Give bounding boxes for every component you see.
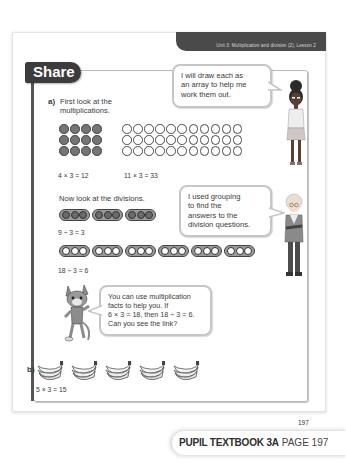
counter-dot: [79, 211, 87, 219]
page-label: PAGE 197: [282, 437, 329, 448]
banana-bunch-icon: [138, 358, 166, 382]
counter-dot: [211, 247, 219, 255]
part-a-intro-line2: multiplications.: [60, 106, 110, 115]
bubble-tail-girl: [268, 78, 282, 94]
counter-group: [191, 245, 222, 257]
section-title-share: Share: [25, 62, 81, 83]
counter-group: [92, 245, 123, 257]
counter-dot: [133, 135, 143, 145]
counter-dot: [145, 247, 153, 255]
banana-bunch-icon: [70, 358, 98, 382]
counter-group: [125, 245, 156, 257]
counter-dot: [211, 146, 221, 156]
counter-dot: [222, 135, 232, 145]
counter-dot: [166, 124, 176, 134]
counter-dot: [227, 247, 235, 255]
counter-dot: [70, 146, 80, 156]
banana-bunch-icon: [36, 358, 64, 382]
boy-line2: to find the: [188, 201, 263, 210]
boy-line4: division questions.: [188, 220, 263, 229]
equation-4x3: 4 × 3 = 12: [58, 171, 89, 180]
speech-bubble-boy: I used grouping to find the answers to t…: [179, 185, 272, 237]
girl-line2: an array to help me: [181, 80, 263, 89]
counter-dot: [112, 247, 120, 255]
counter-dot: [122, 135, 132, 145]
counter-dot: [144, 146, 154, 156]
counter-dot: [177, 146, 187, 156]
cat-line3: 6 × 3 = 18, then 18 ÷ 3 = 6.: [108, 310, 203, 319]
part-b-label: b): [27, 365, 35, 374]
counter-dot: [233, 135, 243, 145]
part-a-intro-line1: First look at the: [60, 97, 112, 106]
counter-dot: [59, 146, 69, 156]
counter-dot: [200, 146, 210, 156]
counter-dot: [122, 124, 132, 134]
counter-dot: [95, 247, 103, 255]
cat-character-icon: [62, 284, 92, 344]
counter-dot: [144, 124, 154, 134]
counter-dot: [155, 146, 165, 156]
counter-dot: [177, 135, 187, 145]
array-4x3: [59, 124, 102, 156]
banana-bunches: [36, 358, 200, 382]
counter-dot: [81, 146, 91, 156]
counter-dot: [244, 247, 252, 255]
speech-bubble-cat: You can use multiplication facts to help…: [99, 285, 212, 336]
cat-line4: Can you see the link?: [108, 319, 203, 328]
counter-dot: [194, 247, 202, 255]
counter-dot: [137, 211, 145, 219]
counter-dot: [200, 135, 210, 145]
counter-group: [158, 245, 189, 257]
counter-group: [92, 209, 123, 221]
counter-dot: [128, 211, 136, 219]
counter-dot: [92, 135, 102, 145]
counter-dot: [104, 247, 112, 255]
counter-dot: [166, 146, 176, 156]
division-groups-18: [59, 245, 255, 257]
counter-dot: [161, 247, 169, 255]
counter-dot: [189, 146, 199, 156]
divisions-intro: Now look at the divisions.: [59, 194, 145, 203]
counter-dot: [145, 211, 153, 219]
counter-dot: [70, 124, 80, 134]
counter-dot: [81, 124, 91, 134]
counter-dot: [222, 124, 232, 134]
counter-dot: [71, 211, 79, 219]
counter-dot: [128, 247, 136, 255]
counter-dot: [166, 135, 176, 145]
speech-bubble-girl: I will draw each as an array to help me …: [172, 64, 272, 108]
counter-dot: [189, 135, 199, 145]
cat-line2: facts to help you. If: [108, 301, 203, 310]
boy-line1: I used grouping: [188, 192, 263, 201]
division-groups-9: [59, 209, 156, 221]
banana-bunch-icon: [104, 358, 132, 382]
counter-dot: [79, 247, 87, 255]
girl-character-icon: [283, 78, 309, 168]
counter-dot: [170, 247, 178, 255]
counter-group: [59, 209, 90, 221]
counter-dot: [189, 124, 199, 134]
counter-dot: [133, 124, 143, 134]
counter-dot: [137, 247, 145, 255]
boy-line3: answers to the: [188, 211, 263, 220]
counter-dot: [155, 124, 165, 134]
counter-group: [125, 209, 156, 221]
counter-dot: [59, 124, 69, 134]
page-number: 197: [298, 419, 309, 426]
counter-dot: [155, 135, 165, 145]
footer-book-tab: PUPIL TEXTBOOK 3APAGE 197: [172, 431, 346, 455]
equation-5x3: 5 × 3 = 15: [36, 385, 67, 394]
counter-dot: [112, 211, 120, 219]
equation-18div3: 18 ÷ 3 = 6: [58, 266, 88, 275]
girl-line3: work them out.: [181, 90, 263, 99]
equation-9div3: 9 ÷ 3 = 3: [58, 228, 85, 237]
counter-dot: [222, 146, 232, 156]
counter-dot: [59, 135, 69, 145]
counter-dot: [233, 124, 243, 134]
counter-dot: [71, 247, 79, 255]
counter-dot: [62, 247, 70, 255]
counter-dot: [81, 135, 91, 145]
counter-dot: [211, 124, 221, 134]
counter-dot: [177, 124, 187, 134]
counter-dot: [203, 247, 211, 255]
